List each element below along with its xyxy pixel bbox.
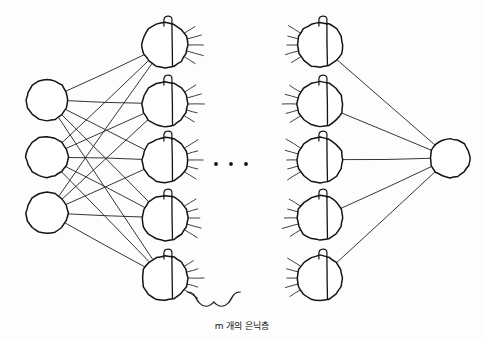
neuron-whisker [289,26,301,33]
neuron-whisker [290,290,301,297]
input-node-3[interactable] [26,192,69,233]
neuron-whisker [187,151,198,154]
neuron-whisker [185,230,198,238]
hidden-right-neuron-1[interactable] [298,16,343,67]
hidden-left-neuron-2-circle [142,82,188,127]
hidden-right-neuron-2-circle [297,81,343,126]
hidden-right-neuron-2[interactable] [297,75,343,127]
hidden-left-neuron-2-divider [172,83,173,125]
hidden-left-neuron-1[interactable] [142,16,188,68]
neuron-whisker [187,51,203,56]
neuron-whisker [290,230,300,236]
neuron-whisker [187,110,197,113]
neuron-whisker [285,94,298,98]
hidden-left-neuron-5[interactable] [143,249,188,300]
neuron-whisker [187,166,198,169]
hidden-left-neuron-2[interactable] [142,75,188,127]
neuron-whisker [187,284,198,287]
ellipsis-dots [214,162,248,166]
hidden-left-neuron-3[interactable] [142,131,188,183]
neuron-whisker [286,284,298,287]
neuron-whisker [288,36,298,39]
ellipsis-dot-3 [244,162,248,166]
neuron-whisker [185,199,196,206]
input-node-group [26,79,69,233]
hidden-left-neuron-5-circle [143,256,188,301]
neuron-whisker [187,35,201,39]
neuron-whisker [185,116,195,122]
caption-label: m 개의 은닉층 [215,321,270,331]
hidden-right-neuron-1-circle [298,22,343,67]
neuron-whisker [286,110,298,113]
output-node-group [431,139,471,178]
output-node-target[interactable] [431,139,471,178]
input-node-1-circle [26,79,68,120]
neuron-whisker [187,224,201,228]
neuron-whisker [290,116,300,122]
neuron-whisker [289,199,300,206]
neuron-whisker [282,224,298,228]
edges-input-to-hidden [59,55,153,267]
edges-hidden-to-output [337,60,435,262]
input-node-1[interactable] [26,79,68,120]
connection-line [343,158,430,159]
curly-brace-path [187,292,240,306]
hidden-left-neuron-4-circle [142,196,188,241]
neuron-whisker [286,51,298,55]
hidden-right-neuron-3-divider [327,139,328,181]
connection-line [341,113,431,151]
neuron-whisker [185,140,199,148]
neuron-whisker [185,261,194,266]
hidden-right-neuron-4-circle [297,195,343,240]
neuron-whisker [290,85,301,92]
hidden-right-neuron-4[interactable] [297,189,343,240]
neuron-whisker [185,172,197,179]
connection-line [66,55,144,91]
connection-line [59,118,153,259]
neuron-whisker [287,269,298,272]
output-node-target-circle [431,139,471,178]
diagram-canvas: m 개의 은닉층 [0,0,485,341]
ellipsis-dot-1 [214,162,218,166]
hidden-right-neuron-5-circle [297,255,342,301]
hidden-left-neuron-1-divider [172,24,173,66]
input-node-2[interactable] [26,137,69,178]
hidden-right-neuron-5[interactable] [297,249,342,300]
hidden-layers-brace [187,292,240,306]
connection-line [66,169,144,204]
neuron-whisker [185,57,196,64]
hidden-left-neuron-4[interactable] [142,189,188,241]
caption-group: m 개의 은닉층 [215,321,270,331]
hidden-right-node-group [297,16,343,300]
hidden-left-neuron-3-divider [172,139,173,181]
neuron-whisker [185,27,195,33]
hidden-right-neuron-3[interactable] [297,131,343,183]
hidden-right-neuron-1-divider [327,24,328,66]
neuron-whisker [292,57,301,63]
hidden-right-neuron-4-divider [327,197,328,239]
hidden-right-neuron-2-divider [327,83,328,125]
hidden-right-neuron-5-divider [327,257,328,299]
hidden-right-neuron-3-circle [297,137,343,183]
neuron-whisker [187,209,198,212]
neuron-whisker [286,139,300,148]
input-node-3-circle [26,192,69,233]
neuron-whisker [185,85,196,92]
neuron-whisker [288,166,298,169]
neuron-whisker [288,209,298,212]
neuron-whisker [288,172,301,180]
neuron-whisker [187,94,201,98]
connection-line [337,172,435,263]
neuron-whisker [187,269,198,272]
hidden-left-neuron-3-circle [142,137,188,183]
hidden-left-node-group [142,16,189,300]
hidden-left-neuron-1-circle [142,22,188,68]
hidden-left-neuron-4-divider [172,197,173,239]
neuron-whisker [288,258,301,266]
connection-line [337,60,435,145]
input-node-2-circle [26,137,69,178]
neuron-whisker [285,150,298,154]
hidden-left-neuron-5-divider [172,257,173,299]
ellipsis-dot-2 [229,162,233,166]
